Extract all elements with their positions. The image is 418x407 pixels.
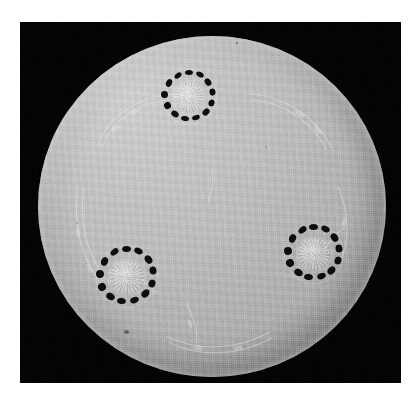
fabric-speck	[76, 222, 78, 224]
photo-frame	[20, 22, 401, 383]
fabric-speck	[236, 42, 238, 44]
medallion-top-rosette	[173, 81, 205, 113]
cutwork-hole	[309, 224, 318, 230]
fabric-speck	[265, 146, 267, 148]
medallion-lower-left-rosette	[109, 259, 145, 295]
medallion-top	[161, 69, 217, 125]
medallion-right-rosette	[297, 237, 331, 271]
cutwork-hole	[185, 70, 193, 75]
cutwork-hole	[122, 246, 131, 252]
fabric-stain	[124, 330, 129, 334]
medallion-right	[284, 224, 344, 284]
medallion-lower-left	[96, 246, 158, 308]
doily-disc	[38, 36, 386, 377]
photo-page	[0, 0, 418, 407]
